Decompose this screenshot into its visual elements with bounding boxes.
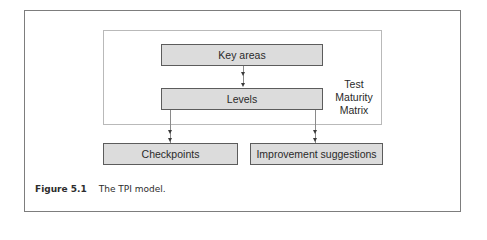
checkpoints-box: Checkpoints: [103, 143, 238, 165]
figure-caption: Figure 5.1The TPI model.: [35, 184, 166, 194]
key-areas-label: Key areas: [218, 49, 265, 61]
caption-text: The TPI model.: [99, 184, 166, 194]
figure-number: Figure 5.1: [35, 184, 87, 194]
matrix-label-line: Test: [327, 78, 381, 91]
matrix-label-line: Maturity: [327, 91, 381, 104]
arrowhead-icon: [168, 138, 172, 142]
arrowhead-icon: [241, 72, 245, 76]
key-areas-box: Key areas: [161, 44, 323, 66]
test-maturity-matrix-label: Test Maturity Matrix: [327, 78, 381, 117]
matrix-label-line: Matrix: [327, 104, 381, 117]
improvement-suggestions-box: Improvement suggestions: [250, 143, 383, 165]
arrowhead-icon: [241, 83, 245, 87]
levels-label: Levels: [227, 93, 257, 105]
checkpoints-label: Checkpoints: [142, 148, 200, 160]
arrowhead-icon: [313, 130, 317, 134]
arrowhead-icon: [168, 130, 172, 134]
levels-box: Levels: [161, 88, 323, 110]
improvement-suggestions-label: Improvement suggestions: [256, 148, 376, 160]
arrowhead-icon: [313, 138, 317, 142]
